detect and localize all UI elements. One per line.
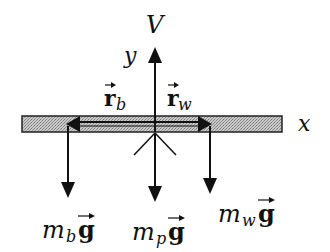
weight-b-label: m b g — [42, 213, 95, 246]
svg-text:m: m — [218, 200, 241, 228]
support-force-label: V — [146, 11, 166, 39]
weight-p-arrow — [148, 133, 162, 202]
svg-text:p: p — [156, 229, 166, 248]
svg-text:w: w — [242, 211, 256, 230]
svg-text:b: b — [116, 95, 126, 114]
plank-bar — [22, 116, 282, 132]
svg-text:r: r — [104, 85, 116, 111]
weight-w-arrow — [203, 126, 217, 194]
weight-b-arrow — [61, 126, 75, 198]
weight-w-label: m w g — [218, 197, 275, 230]
svg-text:m: m — [42, 216, 65, 244]
y-axis-label: y — [123, 43, 137, 68]
svg-text:w: w — [178, 95, 192, 114]
svg-text:m: m — [132, 218, 155, 246]
svg-text:g: g — [78, 215, 95, 244]
x-axis-label: x — [298, 111, 311, 136]
svg-text:b: b — [66, 227, 76, 246]
r-b-label: r b — [104, 82, 126, 114]
svg-text:g: g — [168, 217, 185, 246]
weight-p-label: m p g — [132, 215, 185, 248]
svg-text:g: g — [258, 199, 275, 228]
r-w-label: r w — [167, 82, 192, 114]
free-body-diagram: V y x r b r w m b g m p g m w g — [0, 0, 330, 252]
